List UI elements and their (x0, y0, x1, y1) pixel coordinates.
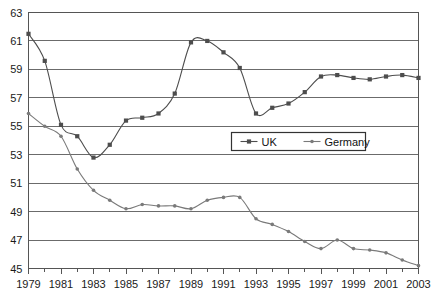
data-point-uk-1992 (238, 66, 242, 70)
line-chart: 45474951535557596163 1979198119831985198… (0, 0, 431, 293)
data-point-uk-1984 (108, 143, 112, 147)
y-tick-label-45: 45 (10, 263, 22, 275)
data-point-uk-1983 (91, 155, 95, 159)
data-point-uk-1998 (335, 73, 339, 77)
data-point-uk-1991 (221, 50, 225, 54)
data-point-germany-1979 (27, 112, 31, 116)
data-point-germany-1990 (205, 198, 209, 202)
legend-swatch-marker-germany (310, 140, 314, 144)
y-tick-label-57: 57 (10, 92, 22, 104)
data-point-germany-1981 (59, 134, 63, 138)
data-point-germany-1994 (270, 223, 274, 227)
data-point-uk-1980 (43, 59, 47, 63)
y-tick-label-55: 55 (10, 120, 22, 132)
y-tick-label-61: 61 (10, 35, 22, 47)
x-axis-tickmarks (29, 269, 419, 274)
legend-label-uk: UK (262, 136, 278, 148)
legend-swatch-marker-uk (247, 139, 251, 143)
data-point-germany-1982 (75, 167, 79, 171)
chart-legend[interactable]: UKGermany (232, 133, 371, 151)
data-point-uk-2002 (400, 73, 404, 77)
x-tick-label-1997: 1997 (309, 278, 333, 290)
data-point-germany-1997 (319, 247, 323, 251)
data-point-germany-1991 (222, 196, 226, 200)
data-point-uk-1999 (351, 76, 355, 80)
y-tick-label-51: 51 (10, 177, 22, 189)
x-tick-label-1989: 1989 (179, 278, 203, 290)
data-point-germany-1992 (238, 196, 242, 200)
data-point-uk-1997 (319, 74, 323, 78)
data-point-germany-1985 (124, 207, 128, 211)
x-tick-label-1999: 1999 (341, 278, 365, 290)
data-point-uk-1981 (59, 123, 63, 127)
x-axis-tick-labels: 1979198119831985198719891991199319951997… (16, 278, 430, 290)
data-point-germany-1998 (335, 238, 339, 242)
data-point-germany-1999 (352, 247, 356, 251)
y-tick-label-53: 53 (10, 149, 22, 161)
data-point-uk-2000 (368, 77, 372, 81)
x-tick-label-1987: 1987 (146, 278, 170, 290)
y-tick-label-63: 63 (10, 7, 22, 19)
data-point-uk-1989 (189, 40, 193, 44)
data-point-germany-1996 (303, 240, 307, 244)
data-point-uk-1996 (303, 90, 307, 94)
data-point-uk-1986 (140, 116, 144, 120)
x-tick-label-1993: 1993 (244, 278, 268, 290)
data-point-uk-2003 (416, 76, 420, 80)
legend-label-germany: Germany (325, 136, 371, 148)
x-tick-label-1985: 1985 (114, 278, 138, 290)
y-axis-tick-labels: 45474951535557596163 (10, 7, 22, 275)
data-point-uk-1993 (254, 111, 258, 115)
y-tick-label-59: 59 (10, 63, 22, 75)
data-point-uk-1982 (75, 134, 79, 138)
x-tick-label-2001: 2001 (374, 278, 398, 290)
data-point-germany-1995 (287, 230, 291, 234)
data-point-germany-2000 (368, 248, 372, 252)
data-point-uk-1995 (286, 101, 290, 105)
data-point-germany-1988 (173, 204, 177, 208)
data-point-germany-1993 (254, 217, 258, 221)
data-point-uk-2001 (384, 74, 388, 78)
data-point-uk-1994 (270, 106, 274, 110)
data-point-uk-1987 (156, 111, 160, 115)
data-point-germany-1986 (140, 203, 144, 207)
x-tick-label-1991: 1991 (211, 278, 235, 290)
x-tick-label-1995: 1995 (276, 278, 300, 290)
x-tick-label-1981: 1981 (49, 278, 73, 290)
data-point-germany-2002 (400, 258, 404, 262)
x-tick-label-1979: 1979 (16, 278, 40, 290)
data-point-germany-2001 (384, 251, 388, 255)
data-point-germany-1987 (157, 204, 161, 208)
data-point-uk-1985 (124, 118, 128, 122)
data-point-germany-1983 (92, 188, 96, 192)
data-point-uk-1990 (205, 39, 209, 43)
data-point-germany-1984 (108, 198, 112, 202)
gridlines (29, 13, 419, 241)
chart-canvas: 45474951535557596163 1979198119831985198… (0, 0, 431, 293)
x-tick-label-2003: 2003 (406, 278, 430, 290)
data-point-germany-1980 (43, 124, 47, 128)
data-point-uk-1979 (26, 32, 30, 36)
y-tick-label-49: 49 (10, 206, 22, 218)
data-point-germany-2003 (417, 264, 421, 268)
x-tick-label-1983: 1983 (81, 278, 105, 290)
y-tick-label-47: 47 (10, 234, 22, 246)
data-point-uk-1988 (173, 91, 177, 95)
data-point-germany-1989 (189, 207, 193, 211)
